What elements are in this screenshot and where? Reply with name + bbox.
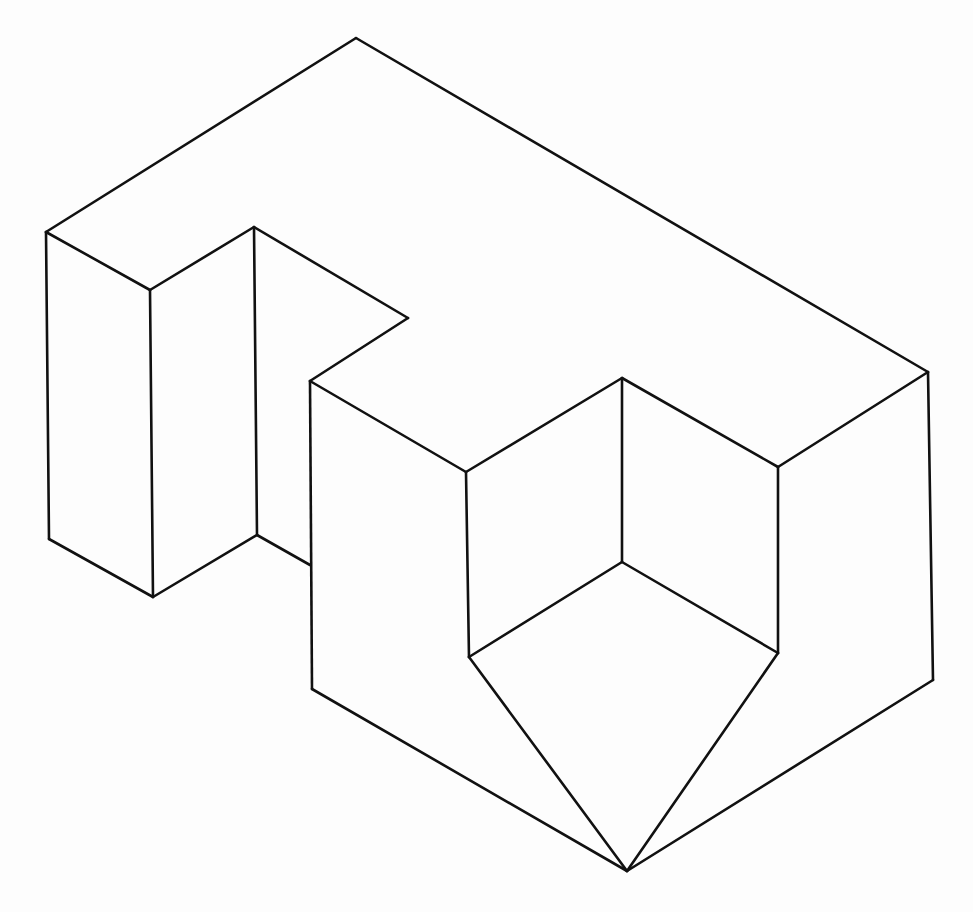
- edge-left_col_front_top-notch_top: [150, 227, 254, 290]
- edge-cut_left_bottom-bottom_tip: [469, 657, 627, 871]
- edge-notch_bottom-front_left_join: [257, 535, 310, 565]
- edge-notch_top-notch_bottom: [254, 227, 257, 535]
- edge-cut_inner_bottom-cut_right_bottom: [622, 562, 778, 653]
- edge-bottom_tip-right_bottom: [627, 680, 933, 871]
- edge-back_right-right_bottom: [928, 372, 933, 680]
- edge-front_left_bottom-bottom_tip: [312, 689, 627, 871]
- edge-left_col_bottom-notch_bottom: [153, 535, 257, 597]
- edge-notch_top-notch_right: [254, 227, 408, 318]
- edge-cut_back_top-cut_right_top: [622, 378, 778, 467]
- isometric-drawing: [0, 0, 973, 912]
- edge-cut_right_top-back_right: [778, 372, 928, 467]
- edge-cut_left_top-cut_back_top: [466, 378, 622, 472]
- edge-left_top-left_bottom: [46, 232, 49, 539]
- edge-left_bottom-left_col_bottom: [49, 539, 153, 597]
- edge-notch_right-front_left_top: [310, 318, 408, 381]
- edge-left_col_front_top-left_col_bottom: [150, 290, 153, 597]
- edge-cut_inner_bottom-cut_left_bottom: [469, 562, 622, 657]
- edge-front_left_top-cut_left_top: [310, 381, 466, 472]
- edge-top-left_top: [46, 38, 356, 232]
- edge-front_left_top-front_left_bottom: [310, 381, 312, 689]
- isometric-solid-figure: [0, 0, 973, 912]
- edge-left_top-left_col_front_top: [46, 232, 150, 290]
- edge-top-back_right: [356, 38, 928, 372]
- edge-cut_right_bottom-bottom_tip: [627, 653, 778, 871]
- edge-cut_left_top-cut_left_bottom: [466, 472, 469, 657]
